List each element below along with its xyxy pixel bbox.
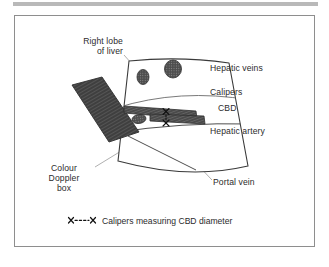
label-hepatic-veins: Hepatic veins (210, 63, 263, 73)
label-hepatic-artery: Hepatic artery (210, 126, 265, 136)
caliper-marker-glyph (67, 215, 97, 226)
hepatic-vein-right (165, 60, 182, 78)
label-cbd: CBD (218, 103, 236, 113)
ultrasound-diagram (0, 0, 329, 267)
figure-page: Right lobe of liver Hepatic veins Calipe… (0, 0, 329, 267)
label-colour-doppler-box: Colour Doppler box (34, 163, 94, 194)
legend-caption: Calipers measuring CBD diameter (102, 216, 232, 226)
label-right-lobe-of-liver: Right lobe of liver (59, 36, 123, 56)
label-calipers: Calipers (210, 87, 242, 97)
hepatic-vein-left (137, 70, 149, 85)
label-portal-vein: Portal vein (213, 177, 255, 187)
legend: Calipers measuring CBD diameter (67, 215, 232, 226)
